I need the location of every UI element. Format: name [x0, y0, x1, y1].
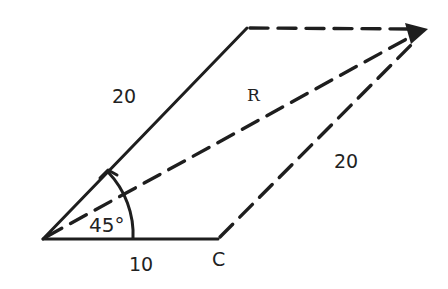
vector-20-solid — [43, 28, 247, 239]
resultant-arrowhead-icon — [405, 23, 428, 44]
label-resultant: R — [247, 87, 260, 104]
vector-parallelogram-diagram — [0, 0, 448, 289]
right-dashed-side — [220, 40, 416, 237]
label-left-side-magnitude: 20 — [112, 87, 136, 106]
label-bottom-side-magnitude: 10 — [129, 255, 153, 274]
resultant-dashed-line — [46, 36, 412, 237]
label-angle: 45° — [89, 215, 124, 235]
top-dashed-side — [250, 28, 418, 29]
label-right-side-magnitude: 20 — [334, 152, 358, 171]
label-point-c: C — [212, 250, 225, 269]
